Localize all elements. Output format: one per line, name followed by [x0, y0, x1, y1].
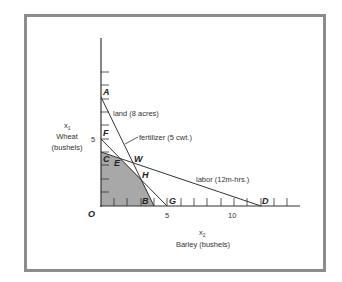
x-tick-label-10: 10 — [228, 211, 236, 220]
point-e-label: E — [114, 158, 121, 168]
x-axis-subscript: 2 — [203, 232, 206, 238]
fertilizer-leader-line — [125, 137, 138, 144]
labor-label: labor (12m-hrs.) — [196, 175, 250, 184]
linear-programming-diagram: land (8 acres) fertilizer (5 cwt.) labor… — [0, 0, 342, 282]
x-tick-label-5: 5 — [165, 211, 169, 220]
x-axis-title: x2 Barley (bushels) — [176, 228, 231, 249]
point-c-label: C — [103, 154, 110, 164]
y-axis-subscript: 1 — [68, 125, 71, 131]
point-w-label: W — [134, 154, 144, 164]
point-d-label: D — [262, 196, 269, 206]
point-f-label: F — [103, 128, 109, 138]
y-axis-title: x1 Wheat (bushels) — [52, 121, 83, 152]
point-b-label: B — [142, 196, 149, 206]
svg-text:x2: x2 — [199, 228, 206, 238]
point-g-label: G — [169, 196, 176, 206]
y-axis-name: Wheat — [56, 132, 79, 141]
x-axis-name: Barley (bushels) — [176, 240, 231, 249]
svg-text:x1: x1 — [64, 121, 71, 131]
point-h-label: H — [142, 170, 149, 180]
origin-label: O — [88, 209, 95, 219]
y-axis-unit: (bushels) — [52, 143, 83, 152]
point-a-label: A — [102, 87, 110, 97]
y-tick-label-5: 5 — [91, 135, 95, 144]
fertilizer-label: fertilizer (5 cwt.) — [139, 133, 192, 142]
land-label: land (8 acres) — [113, 109, 159, 118]
